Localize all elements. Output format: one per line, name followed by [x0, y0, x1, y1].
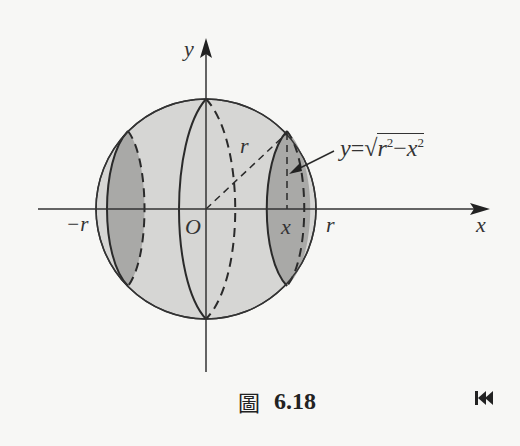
pos-r-label: r: [326, 214, 335, 236]
sphere-volume-diagram: y x O −r r x r y=√r2−x2: [0, 0, 520, 446]
sqrt-icon: √: [364, 135, 377, 161]
figure-number: 6.18: [274, 388, 316, 415]
formula-lhs: y: [340, 135, 351, 161]
x-mark-label: x: [281, 216, 291, 238]
y-axis-label: y: [184, 38, 194, 60]
x-axis-label: x: [476, 214, 486, 236]
formula-r: r: [377, 135, 386, 161]
skip-back-icon: [474, 389, 496, 407]
formula-x: x: [407, 135, 418, 161]
figure-char: 圖: [238, 385, 260, 417]
formula-eq: =: [351, 135, 365, 161]
figure-caption: 圖 6.18: [238, 385, 316, 417]
back-to-start-icon[interactable]: [474, 388, 496, 412]
formula-radicand: r2−x2: [377, 133, 424, 161]
formula-label: y=√r2−x2: [340, 135, 424, 162]
origin-label: O: [185, 216, 201, 238]
formula-x-exp: 2: [417, 135, 424, 150]
neg-r-label: −r: [66, 214, 88, 235]
formula-minus: −: [393, 135, 407, 161]
radius-label: r: [240, 135, 249, 157]
